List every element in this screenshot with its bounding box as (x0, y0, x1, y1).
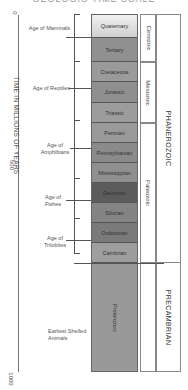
age-pointer-fishes (66, 200, 92, 201)
period-label: Cretaceous (100, 69, 128, 75)
bracket-tick (74, 120, 80, 121)
period-silurian: Silurian (91, 203, 138, 223)
diagram-title: GEOLOGIC TIME SCALE (0, 0, 188, 4)
era-label: Cenozoic (145, 25, 151, 50)
period-label: Ordovician (101, 230, 127, 236)
era-label: Mesozoic (145, 80, 151, 105)
period-devonian: Devonian (91, 183, 138, 203)
age-label-earliest-shelled: Earliest Shelled Animals (48, 328, 90, 341)
period-label: Tertiary (105, 47, 123, 53)
period-label: Triassic (105, 110, 124, 116)
period-label: Pennsylvanian (97, 150, 133, 156)
period-cretaceous: Cretaceous (91, 62, 138, 82)
era-blank-precambrian (140, 263, 156, 372)
age-label-fishes: Age of Fishes (40, 194, 66, 207)
age-label-trilobites: Age of Trilobites (40, 235, 70, 248)
period-label: Permian (104, 130, 124, 136)
eon-phanerozoic: PHANEROZOIC (156, 14, 181, 263)
axis-title: TIME IN MILLIONS OF YEARS (13, 66, 20, 186)
eon-precambrian: PRECAMBRIAN (156, 263, 181, 372)
period-tertiary: Tertiary (91, 38, 138, 62)
era-label: Paleozoic (145, 180, 151, 206)
eon-label: PHANEROZOIC (165, 111, 172, 167)
eon-label: PRECAMBRIAN (165, 289, 172, 345)
period-ordovician: Ordovician (91, 223, 138, 243)
bracket-tick (74, 14, 80, 15)
period-triassic: Triassic (91, 103, 138, 123)
age-pointer-mammals (66, 37, 92, 38)
period-label: Quaternary (101, 23, 129, 29)
period-permian: Permian (91, 123, 138, 143)
era-paleozoic: Paleozoic (140, 123, 156, 263)
period-label: Cambrian (103, 250, 127, 256)
period-quaternary: Quaternary (91, 14, 138, 38)
axis-tick-1000: 1000 (8, 370, 14, 388)
age-label-amphibians: Age of Amphibians (38, 142, 72, 155)
period-proterozoic: Proterozoic (91, 263, 138, 372)
era-mesozoic: Mesozoic (140, 62, 156, 123)
bracket-tick (74, 61, 80, 62)
period-label: Proterozoic (111, 304, 117, 332)
bracket-tick (74, 218, 80, 219)
period-label: Mississippian (98, 170, 131, 176)
bracket-tick (74, 253, 80, 254)
age-label-reptiles: Age of Reptiles (20, 85, 70, 92)
period-jurassic: Jurassic (91, 82, 138, 103)
precambrian-boundary-line (74, 263, 164, 264)
age-label-mammals: Age of Mammals (20, 25, 70, 32)
period-label: Devonian (103, 190, 126, 196)
period-cambrian: Cambrian (91, 243, 138, 263)
period-pennsylvanian: Pennsylvanian (91, 143, 138, 163)
axis-tick-0: 0 (12, 8, 18, 18)
period-label: Silurian (105, 210, 123, 216)
period-label: Jurassic (104, 89, 124, 95)
age-pointer-reptiles (69, 88, 92, 89)
age-pointer-trilobites (66, 240, 92, 241)
era-cenozoic: Cenozoic (140, 14, 156, 62)
period-mississippian: Mississippian (91, 163, 138, 183)
bracket-tick (74, 178, 80, 179)
age-pointer-amphibians (70, 148, 92, 149)
